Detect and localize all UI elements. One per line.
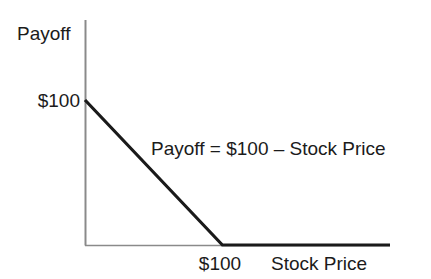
payoff-series-line — [85, 100, 390, 245]
y-axis-title: Payoff — [17, 23, 71, 45]
x-axis-title: Stock Price — [271, 253, 367, 275]
payoff-equation-annotation: Payoff = $100 – Stock Price — [151, 138, 386, 160]
y-axis-tick-label: $100 — [0, 90, 80, 112]
payoff-diagram: Payoff $100 Payoff = $100 – Stock Price … — [0, 0, 431, 279]
x-axis-tick-label: $100 — [168, 253, 272, 275]
